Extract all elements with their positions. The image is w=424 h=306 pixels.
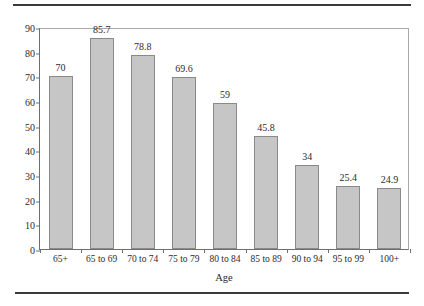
x-axis-category-label: 65+ — [53, 255, 68, 265]
bar[interactable] — [49, 76, 73, 249]
bar[interactable] — [90, 38, 114, 249]
x-axis-category-label: 80 to 84 — [209, 255, 240, 265]
x-axis-category-label: 95 to 99 — [333, 255, 364, 265]
x-axis-category-label: 100+ — [380, 255, 400, 265]
bar-value-label: 24.9 — [381, 175, 399, 185]
x-axis-tick-mark — [40, 249, 41, 253]
bar[interactable] — [336, 186, 360, 249]
y-axis-tick-label: 0 — [30, 246, 35, 256]
bar-value-label: 78.8 — [134, 42, 152, 52]
y-axis-tick-label: 90 — [25, 24, 35, 34]
y-axis-tick-label: 80 — [25, 49, 35, 59]
x-axis-tick-mark — [246, 249, 247, 253]
x-axis-tick-mark — [328, 249, 329, 253]
figure-rule-top — [13, 4, 411, 6]
x-axis-category-label: 85 to 89 — [251, 255, 282, 265]
y-axis-tick-label: 30 — [25, 172, 35, 182]
y-axis-tick-mark — [36, 152, 40, 153]
y-axis-tick-label: 70 — [25, 73, 35, 83]
y-axis-tick-mark — [36, 177, 40, 178]
y-axis-tick-mark — [36, 226, 40, 227]
y-axis-tick-mark — [36, 29, 40, 30]
x-axis-tick-mark — [369, 249, 370, 253]
bar-group: 25.495 to 99 — [328, 29, 369, 249]
y-axis-tick-mark — [36, 201, 40, 202]
bar-group: 69.675 to 79 — [163, 29, 204, 249]
bar[interactable] — [254, 136, 278, 249]
x-axis-tick-mark — [122, 249, 123, 253]
bar-value-label: 69.6 — [175, 64, 193, 74]
figure-rule-bottom — [15, 292, 409, 294]
x-axis-tick-mark — [81, 249, 82, 253]
plot-area: 7065+85.765 to 6978.870 to 7469.675 to 7… — [39, 28, 409, 250]
figure-container: 7065+85.765 to 6978.870 to 7469.675 to 7… — [0, 0, 424, 306]
bar-value-label: 70 — [56, 63, 66, 73]
bar-value-label: 25.4 — [340, 173, 358, 183]
y-axis-tick-label: 40 — [25, 147, 35, 157]
bar-group: 45.885 to 89 — [246, 29, 287, 249]
bar-value-label: 85.7 — [93, 25, 111, 35]
bar[interactable] — [377, 188, 401, 249]
x-axis-tick-mark — [204, 249, 205, 253]
x-axis-category-label: 70 to 74 — [127, 255, 158, 265]
y-axis-tick-label: 60 — [25, 98, 35, 108]
bar-value-label: 45.8 — [257, 123, 275, 133]
bar[interactable] — [295, 165, 319, 249]
x-axis-title: Age — [39, 272, 409, 283]
x-axis-tick-mark — [163, 249, 164, 253]
bars-layer: 7065+85.765 to 6978.870 to 7469.675 to 7… — [40, 29, 408, 249]
bar-group: 24.9100+ — [369, 29, 410, 249]
y-axis-tick-mark — [36, 127, 40, 128]
y-axis-tick-label: 10 — [25, 221, 35, 231]
bar[interactable] — [172, 77, 196, 249]
bar-group: 5980 to 84 — [204, 29, 245, 249]
x-axis-tick-mark — [410, 249, 411, 253]
bar-group: 85.765 to 69 — [81, 29, 122, 249]
y-axis-tick-mark — [36, 53, 40, 54]
bar-group: 78.870 to 74 — [122, 29, 163, 249]
x-axis-category-label: 75 to 79 — [168, 255, 199, 265]
bar[interactable] — [213, 103, 237, 249]
bar-value-label: 34 — [302, 152, 312, 162]
y-axis-tick-label: 50 — [25, 123, 35, 133]
y-axis-tick-mark — [36, 78, 40, 79]
bar-value-label: 59 — [220, 90, 230, 100]
x-axis-category-label: 90 to 94 — [292, 255, 323, 265]
x-axis-tick-mark — [287, 249, 288, 253]
y-axis-tick-mark — [36, 103, 40, 104]
figure-caption-fragment — [16, 0, 408, 3]
bar[interactable] — [131, 55, 155, 249]
y-axis-tick-label: 20 — [25, 197, 35, 207]
bar-group: 3490 to 94 — [287, 29, 328, 249]
bar-group: 7065+ — [40, 29, 81, 249]
x-axis-category-label: 65 to 69 — [86, 255, 117, 265]
